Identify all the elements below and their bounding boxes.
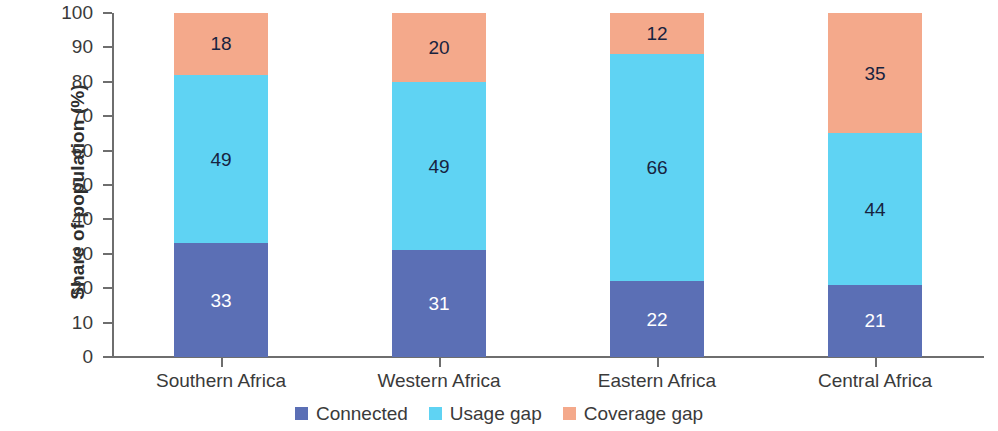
y-axis-tick-mark [103, 81, 112, 83]
legend-label: Usage gap [450, 404, 542, 423]
stacked-bar[interactable]: 334918 [174, 13, 268, 357]
bar-group[interactable]: 334918 [174, 13, 268, 357]
legend-item[interactable]: Connected [295, 404, 408, 423]
y-axis-tick-label: 60 [3, 139, 93, 163]
legend-item[interactable]: Coverage gap [563, 404, 703, 423]
x-axis-tick-mark [657, 358, 659, 367]
bar-segment-value-label: 49 [210, 150, 231, 169]
y-axis-tick-label: 100 [3, 1, 93, 25]
x-axis-tick-mark [221, 358, 223, 367]
stacked-bar-chart: Share of population (%) 0102030405060708… [0, 0, 998, 431]
bar-segment-value-label: 21 [864, 311, 885, 330]
bar-segment[interactable]: 22 [610, 281, 704, 357]
bar-segment[interactable]: 31 [392, 250, 486, 357]
y-axis-tick-label: 20 [3, 276, 93, 300]
y-axis-tick-mark [103, 287, 112, 289]
bar-segment[interactable]: 18 [174, 13, 268, 75]
bar-segment-value-label: 66 [646, 158, 667, 177]
bar-segment-value-label: 44 [864, 200, 885, 219]
bar-group[interactable]: 214435 [828, 13, 922, 357]
x-axis-tick-mark [875, 358, 877, 367]
bar-segment[interactable]: 35 [828, 13, 922, 133]
legend-item[interactable]: Usage gap [429, 404, 542, 423]
y-axis-tick-mark [103, 184, 112, 186]
legend-swatch [429, 407, 442, 420]
y-axis-tick-label: 0 [3, 345, 93, 369]
bar-segment[interactable]: 21 [828, 285, 922, 357]
y-axis-tick-label: 70 [3, 104, 93, 128]
bar-segment-value-label: 20 [428, 38, 449, 57]
y-axis-tick-mark [103, 46, 112, 48]
x-axis-category-label: Southern Africa [112, 370, 330, 392]
y-axis-tick-label: 80 [3, 70, 93, 94]
y-axis-tick-mark [103, 356, 112, 358]
y-axis-tick-label: 30 [3, 242, 93, 266]
plot-area: 334918314920226612214435 [112, 13, 984, 357]
chart-legend: ConnectedUsage gapCoverage gap [0, 404, 998, 423]
bar-segment-value-label: 35 [864, 64, 885, 83]
bar-segment[interactable]: 12 [610, 13, 704, 54]
bar-segment[interactable]: 66 [610, 54, 704, 281]
bar-segment-value-label: 18 [210, 34, 231, 53]
stacked-bar[interactable]: 214435 [828, 13, 922, 357]
x-axis-category-label: Central Africa [766, 370, 984, 392]
y-axis-tick-label: 50 [3, 173, 93, 197]
stacked-bar[interactable]: 226612 [610, 13, 704, 357]
y-axis-tick-label: 10 [3, 311, 93, 335]
y-axis-tick-mark [103, 253, 112, 255]
bar-segment-value-label: 49 [428, 157, 449, 176]
legend-label: Coverage gap [584, 404, 703, 423]
bar-group[interactable]: 314920 [392, 13, 486, 357]
bar-segment-value-label: 12 [646, 24, 667, 43]
y-axis-tick-mark [103, 150, 112, 152]
y-axis-tick-mark [103, 12, 112, 14]
bar-segment[interactable]: 49 [392, 82, 486, 251]
legend-swatch [563, 407, 576, 420]
bar-segment[interactable]: 49 [174, 75, 268, 244]
stacked-bar[interactable]: 314920 [392, 13, 486, 357]
bar-segment[interactable]: 44 [828, 133, 922, 284]
y-axis-tick-label: 90 [3, 35, 93, 59]
y-axis-tick-mark [103, 218, 112, 220]
y-axis-tick-label: 40 [3, 207, 93, 231]
x-axis-category-label: Eastern Africa [548, 370, 766, 392]
y-axis-tick-mark [103, 115, 112, 117]
bar-segment[interactable]: 20 [392, 13, 486, 82]
bar-segment-value-label: 22 [646, 310, 667, 329]
y-axis-tick-mark [103, 322, 112, 324]
x-axis-tick-mark [439, 358, 441, 367]
legend-label: Connected [316, 404, 408, 423]
bar-group[interactable]: 226612 [610, 13, 704, 357]
x-axis-category-label: Western Africa [330, 370, 548, 392]
bar-segment-value-label: 31 [428, 294, 449, 313]
bar-segment-value-label: 33 [210, 291, 231, 310]
bar-segment[interactable]: 33 [174, 243, 268, 357]
legend-swatch [295, 407, 308, 420]
